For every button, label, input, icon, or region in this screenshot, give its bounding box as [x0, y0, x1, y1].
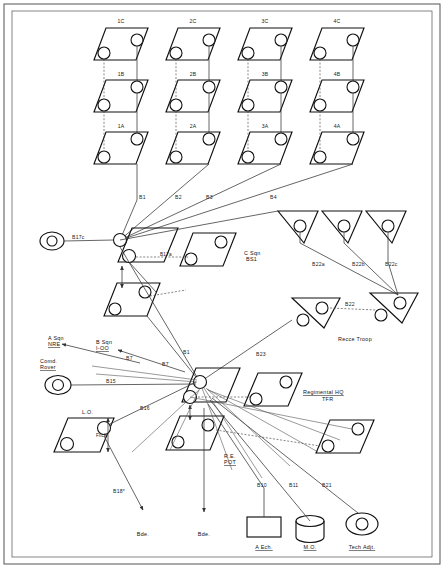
- a-sqn-label-line2: NRE: [48, 341, 60, 347]
- page-frame-inner: [12, 11, 432, 557]
- link-b15: [71, 384, 196, 385]
- flick-label: Flick: [96, 433, 107, 438]
- rhq-title: Regimental HQ: [303, 389, 344, 395]
- troop-label-4c: 4C: [333, 18, 340, 24]
- troop-label-4a: 4A: [334, 123, 341, 129]
- link-to-b-sqn: [118, 350, 185, 372]
- c-sqn-second-symbol: [180, 233, 236, 266]
- recce-hq-right-symbol: [370, 293, 418, 323]
- link-label-b16: B16: [140, 405, 150, 411]
- mo-label: M.O.: [304, 544, 317, 550]
- comd-rover-symbol: [45, 376, 71, 395]
- troop-label-2b: 2B: [190, 71, 197, 77]
- link-label-b1-top: B1: [139, 194, 146, 200]
- recce-section-b22a: [278, 211, 318, 243]
- link-label-b17a: B17a: [160, 252, 172, 257]
- troop-label-3c: 3C: [261, 18, 268, 24]
- link-label-b7-right: B7: [162, 361, 169, 367]
- link-recce-lateral: [330, 308, 376, 310]
- rhq-subtitle: TFR: [322, 396, 333, 402]
- troop-symbol-3a: [238, 132, 292, 164]
- troop-label-3b: 3B: [262, 71, 269, 77]
- bde-label-left: Bde.: [137, 531, 149, 537]
- link-label-b18: B18*: [113, 488, 125, 494]
- recce-section-b22b: [322, 211, 362, 243]
- link-label-b21: B21: [322, 482, 332, 488]
- page-frame-outer: [4, 4, 440, 564]
- link-label-b15: B15: [106, 378, 116, 384]
- tech-adjt-symbol: [346, 513, 378, 535]
- troop-label-1a: 1A: [118, 123, 125, 129]
- troop-symbol-3b: [238, 80, 292, 114]
- a-ech-symbol: [247, 517, 281, 537]
- c-sqn-callsign: BS1: [246, 256, 257, 262]
- link-label-b11: B11: [289, 482, 298, 488]
- recce-troop-title: Recce Troop: [338, 336, 372, 342]
- link-label-b7-left: B7: [126, 355, 133, 361]
- rhq-third-symbol: [166, 416, 224, 450]
- troop-symbol-4c: [310, 28, 364, 62]
- troop-symbol-2c: [166, 28, 220, 62]
- link-label-b2-top: B2: [175, 194, 182, 200]
- recce-hq-left-symbol: [292, 298, 340, 328]
- troop-symbol-4a: [310, 132, 364, 164]
- troop-label-1c: 1C: [117, 18, 124, 24]
- troop-symbol-2a: [166, 132, 220, 164]
- recce-label-b22a: B22a: [312, 261, 325, 267]
- troop-label-2c: 2C: [189, 18, 196, 24]
- bde-label-right: Bde.: [198, 531, 210, 537]
- link-label-b17c: B17c: [72, 234, 85, 240]
- re-pot-line2: POT: [224, 459, 236, 465]
- b17c-station-symbol: [40, 232, 64, 250]
- recce-link-label-b22: B22: [345, 301, 355, 307]
- diagram-canvas: 1C 2C 3C 4C 1B 2B 3B 4B 1A 2A 3A 4A B1 B…: [0, 0, 444, 568]
- hub-label-b1: B1: [183, 349, 190, 355]
- troop-symbol-1b: [94, 80, 148, 114]
- comd-rover-line2: Rover: [40, 364, 56, 370]
- net-line-b2: [120, 164, 209, 240]
- troop-label-3a: 3A: [262, 123, 269, 129]
- rhq-second-symbol: [244, 373, 302, 406]
- rhq-fourth-symbol: [316, 420, 374, 453]
- lo-label: L.O.: [82, 409, 93, 415]
- net-line-b3: [120, 164, 281, 240]
- rhq-main-symbol: [182, 368, 240, 404]
- link-label-b10: B10: [257, 482, 267, 488]
- troop-symbol-3c: [238, 28, 292, 62]
- recce-label-b22c: B22c: [385, 261, 398, 267]
- recce-label-b22b: B22b: [352, 261, 365, 267]
- troop-symbol-1a: [94, 132, 148, 164]
- command-net-diagram: 1C 2C 3C 4C 1B 2B 3B 4B 1A 2A 3A 4A B1 B…: [0, 0, 444, 568]
- tech-adjt-label: Tech Adjt.: [349, 544, 375, 550]
- link-b17c: [64, 240, 114, 241]
- b-sqn-label-line2: I-OO: [96, 345, 109, 351]
- troop-symbol-1c: [94, 28, 148, 62]
- link-b16: [110, 382, 196, 424]
- link-label-b4-top: B4: [270, 194, 277, 200]
- troop-symbol-4b: [310, 80, 364, 114]
- net-line-b4: [120, 164, 353, 240]
- troop-label-2a: 2A: [190, 123, 197, 129]
- troop-label-1b: 1B: [118, 71, 125, 77]
- recce-section-b22c: [366, 211, 406, 262]
- link-label-b3-top: B3: [206, 194, 213, 200]
- troop-label-4b: 4B: [334, 71, 341, 77]
- c-sqn-third-symbol: [104, 283, 160, 316]
- a-ech-label: A Ech.: [255, 544, 272, 550]
- hub-label-b23: B23: [256, 351, 266, 357]
- mo-symbol: [296, 516, 324, 543]
- troop-symbol-2b: [166, 80, 220, 114]
